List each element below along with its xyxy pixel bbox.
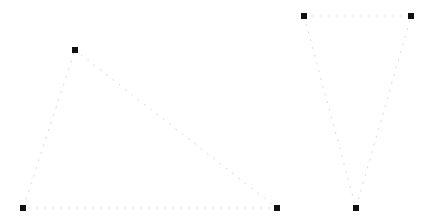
- right-triangle-vertex-top-right: [408, 13, 414, 19]
- left-triangle-vertex-apex: [72, 47, 78, 53]
- canvas-background: [0, 0, 432, 223]
- triangles-svg: [0, 0, 432, 223]
- left-triangle-vertex-bottom-right: [274, 205, 280, 211]
- figure-canvas: [0, 0, 432, 223]
- left-triangle-vertex-bottom-left: [20, 205, 26, 211]
- right-triangle-vertex-top-left: [301, 13, 307, 19]
- right-triangle-vertex-bottom-apex: [353, 205, 359, 211]
